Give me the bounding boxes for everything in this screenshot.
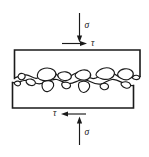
grain-6 xyxy=(62,82,71,89)
grain-1 xyxy=(18,73,25,79)
grain-2 xyxy=(26,79,35,86)
grain-10 xyxy=(100,83,108,89)
grain-8 xyxy=(78,81,89,92)
figure-canvas: σ τ xyxy=(0,0,149,157)
shear-stress-top-arrow xyxy=(62,41,87,46)
lower-block-outline xyxy=(13,83,134,109)
grain-3 xyxy=(37,68,56,81)
grain-4 xyxy=(42,81,54,92)
shear-stress-top-label: τ xyxy=(91,38,95,48)
grain-12 xyxy=(121,82,131,88)
grain-9 xyxy=(96,68,115,80)
grain-5 xyxy=(58,72,71,81)
normal-stress-bottom-arrow xyxy=(77,117,82,146)
shear-stress-bottom-arrow xyxy=(61,111,86,116)
grain-13 xyxy=(14,81,20,86)
grain-11 xyxy=(118,69,134,80)
normal-stress-top-label: σ xyxy=(85,20,90,30)
grain-7 xyxy=(75,70,91,80)
shear-stress-bottom-label: τ xyxy=(53,108,57,118)
normal-stress-bottom-label: σ xyxy=(85,127,90,137)
grain-14 xyxy=(132,75,139,79)
normal-stress-top-arrow xyxy=(77,13,82,43)
joint-shear-diagram: σ τ xyxy=(0,0,149,157)
asperity-grain-group xyxy=(14,68,139,93)
